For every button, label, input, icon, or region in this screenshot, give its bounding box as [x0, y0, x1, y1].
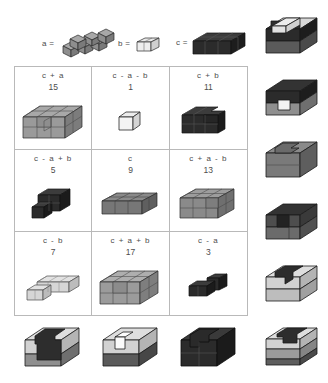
legend-item-b: b =: [118, 30, 165, 56]
grid-cell-c-minus-a-plus-b[interactable]: c - a + b 5: [15, 150, 92, 233]
cell-figure-block-15: [15, 93, 91, 149]
cell-figure-block-5: [15, 176, 91, 232]
page-canvas: a =: [0, 0, 328, 383]
cell-figure-block-17: [92, 258, 168, 315]
cell-expression: c + a: [42, 70, 65, 81]
cell-value: 1: [128, 82, 133, 93]
cell-expression: c - a + b: [34, 153, 72, 164]
grid-cell-c-plus-a-minus-b[interactable]: c + a - b 13: [170, 150, 247, 233]
grid-cell-c-minus-a[interactable]: c - a 3: [170, 232, 247, 315]
cell-value: 11: [204, 82, 213, 93]
grid-cell-c-plus-a[interactable]: c + a 15: [15, 67, 92, 150]
legend-row: a =: [0, 14, 252, 62]
bottom-figure-2: [92, 316, 168, 380]
cell-value: 17: [126, 247, 135, 258]
grid-cell-c-minus-a-minus-b[interactable]: c - a - b 1: [92, 67, 169, 150]
cell-expression: c + b: [197, 70, 220, 81]
cell-value: 13: [204, 165, 213, 176]
cell-figure-block-7: [15, 258, 91, 315]
bottom-figure-row: [14, 316, 246, 380]
bottom-figure-1: [14, 316, 90, 380]
cell-value: 5: [51, 165, 56, 176]
legend-label-c: c =: [176, 38, 188, 47]
side-figure-3: [256, 130, 328, 192]
cell-figure-block-3: [170, 258, 247, 315]
legend-label-b: b =: [118, 39, 130, 48]
piece-b-figure: [133, 30, 165, 56]
cell-expression: c + a + b: [110, 235, 150, 246]
cell-value: 15: [48, 82, 57, 93]
piece-c-figure: [191, 25, 253, 59]
legend-label-a: a =: [42, 39, 54, 48]
grid-cell-c[interactable]: c 9: [92, 150, 169, 233]
cell-value: 9: [128, 165, 133, 176]
bottom-figure-3: [170, 316, 246, 380]
legend-item-c: c =: [176, 25, 253, 59]
grid-cell-c-plus-b[interactable]: c + b 11: [170, 67, 247, 150]
cell-value: 7: [51, 247, 56, 258]
cell-value: 3: [206, 247, 211, 258]
cell-expression: c - a: [198, 235, 219, 246]
cell-figure-block-9: [92, 176, 168, 232]
grid-cell-c-plus-a-plus-b[interactable]: c + a + b 17: [92, 232, 169, 315]
side-figure-4: [256, 192, 328, 254]
cell-figure-single-cube: [92, 93, 168, 149]
grid-cell-c-minus-b[interactable]: c - b 7: [15, 232, 92, 315]
cell-expression: c - b: [43, 235, 64, 246]
expression-grid: c + a 15: [14, 66, 248, 316]
cell-figure-block-13: [170, 176, 247, 232]
cell-figure-block-11: [170, 93, 247, 149]
side-figure-1: [256, 6, 328, 68]
cell-expression: c: [128, 153, 133, 164]
cell-expression: c + a - b: [189, 153, 227, 164]
side-figure-2: [256, 68, 328, 130]
cell-expression: c - a - b: [112, 70, 148, 81]
side-figure-6: [256, 316, 328, 378]
right-figure-column: [256, 4, 328, 379]
piece-a-figure: [57, 26, 119, 60]
legend-item-a: a =: [42, 26, 119, 60]
side-figure-5: [256, 254, 328, 316]
